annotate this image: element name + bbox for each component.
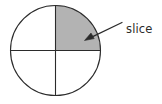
slice-label: slice [126,22,153,36]
circle-quadrant-diagram: slice [0,0,162,104]
figure-container: slice [0,0,162,104]
